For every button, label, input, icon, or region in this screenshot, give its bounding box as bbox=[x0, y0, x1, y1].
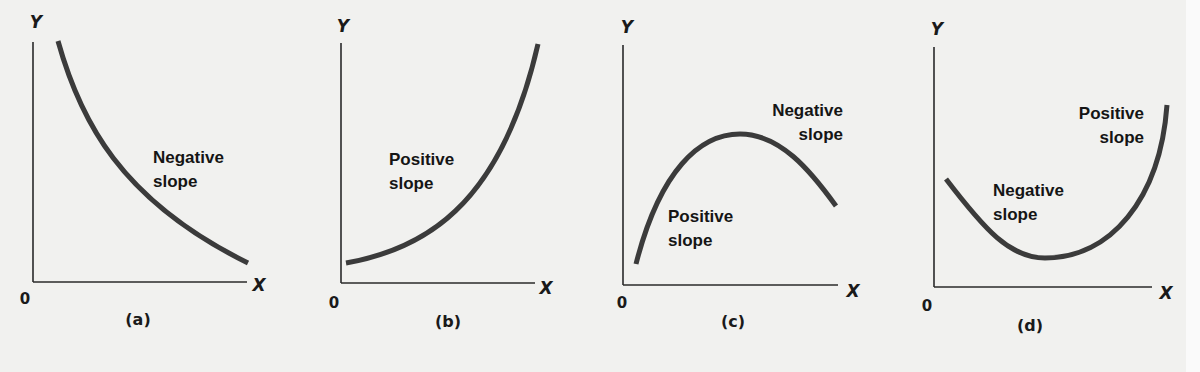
slope-label-line: Negative bbox=[993, 181, 1064, 200]
panel-b: YX0(b)Positiveslope bbox=[329, 16, 554, 331]
panel-caption: (d) bbox=[1017, 316, 1043, 335]
slope-label-line: Positive bbox=[668, 207, 733, 226]
origin-label: 0 bbox=[20, 290, 30, 308]
x-axis-label: X bbox=[1158, 283, 1173, 303]
slope-label-line: slope bbox=[153, 172, 197, 191]
slope-label-line: slope bbox=[1100, 128, 1144, 147]
slope-label-line: Positive bbox=[1079, 104, 1144, 123]
slope-label: Positiveslope bbox=[389, 150, 454, 193]
x-axis-label: X bbox=[251, 275, 266, 295]
slope-label: Negativeslope bbox=[772, 101, 843, 144]
y-axis-label: Y bbox=[931, 19, 945, 39]
slope-label: Positiveslope bbox=[668, 207, 733, 250]
figure-canvas: YX0(a)NegativeslopeYX0(b)PositiveslopeYX… bbox=[0, 0, 1200, 372]
panel-a: YX0(a)Negativeslope bbox=[20, 12, 267, 329]
panel-d: YX0(d)PositiveslopeNegativeslope bbox=[922, 19, 1174, 335]
panel-caption: (a) bbox=[125, 310, 150, 329]
panel-caption: (b) bbox=[435, 312, 461, 331]
slope-figure: YX0(a)NegativeslopeYX0(b)PositiveslopeYX… bbox=[0, 0, 1200, 372]
panel-c: YX0(c)NegativeslopePositiveslope bbox=[617, 17, 861, 331]
origin-label: 0 bbox=[922, 297, 932, 315]
slope-label-line: Positive bbox=[389, 150, 454, 169]
y-axis-label: Y bbox=[337, 16, 351, 36]
slope-label: Positiveslope bbox=[1079, 104, 1144, 147]
slope-label-line: slope bbox=[993, 205, 1037, 224]
slope-label-line: slope bbox=[799, 125, 843, 144]
slope-label-line: slope bbox=[668, 231, 712, 250]
x-axis-label: X bbox=[538, 278, 553, 298]
origin-label: 0 bbox=[617, 294, 627, 312]
y-axis-label: Y bbox=[30, 12, 44, 32]
x-axis-label: X bbox=[845, 281, 860, 301]
slope-label-line: Negative bbox=[153, 148, 224, 167]
slope-label: Negativeslope bbox=[993, 181, 1064, 224]
page-edge bbox=[1186, 0, 1200, 372]
origin-label: 0 bbox=[329, 294, 339, 312]
curve-c bbox=[636, 134, 836, 264]
slope-label-line: slope bbox=[389, 174, 433, 193]
y-axis-label: Y bbox=[621, 17, 635, 37]
slope-label-line: Negative bbox=[772, 101, 843, 120]
slope-label: Negativeslope bbox=[153, 148, 224, 191]
panel-caption: (c) bbox=[721, 312, 745, 331]
